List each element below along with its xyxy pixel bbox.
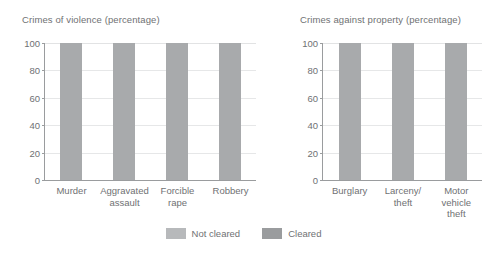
x-label-line: theft xyxy=(377,197,428,209)
ytick-mark-left-0 xyxy=(42,180,45,181)
chart-panel-crimes-against-property: Crimes against property (percentage) 100… xyxy=(292,14,487,254)
ytick-mark-right-0 xyxy=(320,180,323,181)
page-title-right: Crimes against property (percentage) xyxy=(300,14,461,25)
gridline-right-0: 0 xyxy=(323,180,482,181)
x-label-line: theft xyxy=(431,208,482,220)
bar-segment-not-cleared xyxy=(113,43,135,180)
bar-slot-motor-vehicle-theft xyxy=(429,43,482,180)
bar-slot-murder xyxy=(45,43,98,180)
x-label-line: Murder xyxy=(46,185,97,197)
bar-slot-larceny-theft xyxy=(376,43,429,180)
x-label-line: rape xyxy=(152,197,203,209)
legend-swatch-cleared xyxy=(262,228,282,239)
gridline-left-0: 0 xyxy=(45,180,256,181)
page-title-left: Crimes of violence (percentage) xyxy=(22,14,160,25)
ytick-label-right-40: 40 xyxy=(307,120,318,131)
bar-group-left xyxy=(45,43,256,180)
bar-aggravated-assault[interactable] xyxy=(113,43,135,180)
legend: Not cleared Cleared xyxy=(0,228,487,239)
bar-robbery[interactable] xyxy=(219,43,241,180)
x-label-line: vehicle xyxy=(431,197,482,209)
x-label-line: Burglary xyxy=(324,185,375,197)
legend-entry-not-cleared[interactable]: Not cleared xyxy=(166,228,241,239)
legend-label-not-cleared: Not cleared xyxy=(192,228,241,239)
bar-slot-burglary xyxy=(323,43,376,180)
legend-label-cleared: Cleared xyxy=(288,228,321,239)
plot-area-left: 100 80 60 40 20 0 xyxy=(44,43,256,181)
ytick-label-left-100: 100 xyxy=(24,38,40,49)
bar-slot-forcible-rape xyxy=(151,43,204,180)
bar-segment-not-cleared xyxy=(339,43,361,180)
bar-segment-not-cleared xyxy=(445,43,467,180)
bar-murder[interactable] xyxy=(60,43,82,180)
plot-area-right: 100 80 60 40 20 0 xyxy=(322,43,482,181)
ytick-label-left-60: 60 xyxy=(29,92,40,103)
legend-entry-cleared[interactable]: Cleared xyxy=(262,228,321,239)
ytick-label-right-20: 20 xyxy=(307,147,318,158)
bar-forcible-rape[interactable] xyxy=(166,43,188,180)
x-label-line: Aggravated xyxy=(99,185,150,197)
ytick-label-left-20: 20 xyxy=(29,147,40,158)
legend-swatch-not-cleared xyxy=(166,228,186,239)
x-label-line: Forcible xyxy=(152,185,203,197)
ytick-label-left-80: 80 xyxy=(29,65,40,76)
x-label-line: assault xyxy=(99,197,150,209)
bar-group-right xyxy=(323,43,482,180)
bar-motor-vehicle-theft[interactable] xyxy=(445,43,467,180)
ytick-label-right-100: 100 xyxy=(302,38,318,49)
ytick-label-right-60: 60 xyxy=(307,92,318,103)
ytick-label-right-80: 80 xyxy=(307,65,318,76)
bar-larceny-theft[interactable] xyxy=(392,43,414,180)
x-label-line: Larceny/ xyxy=(377,185,428,197)
bar-burglary[interactable] xyxy=(339,43,361,180)
crime-clearance-figure: Crimes of violence (percentage) 100 80 6… xyxy=(0,0,487,269)
bar-segment-not-cleared xyxy=(392,43,414,180)
ytick-label-left-40: 40 xyxy=(29,120,40,131)
ytick-label-right-0: 0 xyxy=(313,175,318,186)
bar-segment-not-cleared xyxy=(166,43,188,180)
bar-segment-not-cleared xyxy=(60,43,82,180)
x-label-line: Robbery xyxy=(205,185,256,197)
bar-segment-not-cleared xyxy=(219,43,241,180)
ytick-label-left-0: 0 xyxy=(35,175,40,186)
chart-panel-crimes-of-violence: Crimes of violence (percentage) 100 80 6… xyxy=(14,14,259,254)
bar-slot-robbery xyxy=(203,43,256,180)
bar-slot-aggravated-assault xyxy=(98,43,151,180)
x-label-line: Motor xyxy=(431,185,482,197)
